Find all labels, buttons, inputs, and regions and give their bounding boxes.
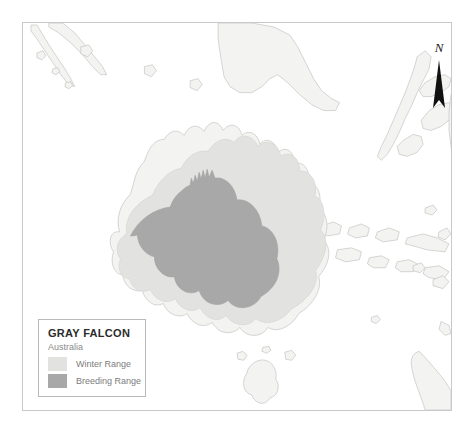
legend-subtitle: Australia [48, 341, 145, 354]
map-figure: .land { fill: #f3f3f1; stroke: #c4c4c2; … [0, 0, 476, 436]
legend-item-winter-range: Winter Range [48, 357, 145, 371]
landmass-tasmania [237, 346, 296, 403]
legend-item-breeding-range: Breeding Range [48, 374, 145, 388]
north-arrow-icon [419, 58, 452, 113]
legend-label-winter-range: Winter Range [76, 359, 131, 369]
landmass-new-zealand [411, 321, 451, 410]
map-legend: GRAY FALCON Australia Winter Range Breed… [38, 319, 146, 397]
map-frame: .land { fill: #f3f3f1; stroke: #c4c4c2; … [22, 22, 452, 411]
north-arrow: N [419, 41, 452, 113]
legend-label-breeding-range: Breeding Range [76, 376, 141, 386]
legend-swatch-breeding-range [48, 374, 67, 388]
north-arrow-label: N [419, 41, 452, 55]
legend-title: GRAY FALCON [48, 327, 145, 340]
legend-swatch-winter-range [48, 357, 67, 371]
